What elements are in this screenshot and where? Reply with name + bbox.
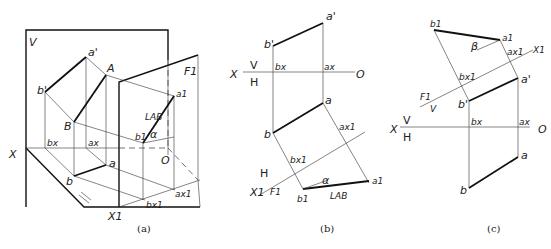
proj-aprime-A [86,57,106,75]
label-b-prime: b' [37,84,47,97]
label-a1: a1 [372,176,383,186]
label-h2: H [260,167,268,180]
segment-bprime-aprime [45,57,86,92]
label-a-prime: a' [521,73,531,86]
equal-mark-2 [81,192,91,200]
label-b: b [264,128,271,141]
label-f1: F1 [270,187,281,197]
label-b1: b1 [430,19,441,29]
label-a: a [521,149,528,162]
label-bx1: bx1 [146,200,163,210]
projection-diagram: V a' A b' B bx ax X a b F1 a1 LAB b1 α O… [0,0,551,249]
caption-b: (b) [320,223,334,234]
panel-a: V a' A b' B bx ax X a b F1 a1 LAB b1 α O… [8,30,200,234]
proj-bprime-b1 [434,30,469,101]
label-o: O [538,123,547,136]
label-f1: F1 [184,65,197,78]
label-x: X [229,68,238,81]
caption-c: (c) [487,223,501,234]
label-beta: β [470,40,478,53]
label-a1: a1 [502,33,513,43]
label-ax1: ax1 [507,47,524,57]
label-a1: a1 [176,89,187,99]
proj-bprime-B [45,92,74,122]
label-bx: bx [47,138,59,148]
h-plane-right [198,180,200,207]
label-ax: ax [88,138,100,148]
label-x: X [389,123,398,136]
label-bx: bx [275,62,287,72]
segment-a1b1 [434,30,500,40]
segment-ab [273,103,323,133]
label-x1: X1 [249,186,265,199]
label-ax: ax [324,62,336,72]
caption-a: (a) [137,223,151,234]
label-lab: LAB [330,191,347,201]
segment-AB [74,75,106,122]
label-ax1: ax1 [339,122,356,132]
segment-bprime-aprime [273,23,323,46]
label-v2: V [430,104,437,114]
segment-ab [469,157,518,188]
angle-ref-line [143,137,174,143]
label-b-prime: b' [458,98,468,111]
equal-mark-1 [79,195,89,203]
panel-c: b1 a1 β ax1 X1 bx1 F1 V a' b' X V H bx a… [389,19,547,234]
label-v: V [29,36,38,49]
label-v: V [403,114,411,127]
segment-a1b1 [303,181,369,189]
proj-A-a1 [106,75,174,96]
label-bx1: bx1 [459,72,476,82]
label-b: b [66,175,73,188]
label-a-prime: a' [326,10,336,23]
label-a: a [325,94,332,107]
label-b1: b1 [135,132,146,142]
proj-B-b1 [74,122,143,143]
label-b: b [460,184,467,197]
label-ax1: ax1 [175,189,192,199]
label-origin: O [161,154,170,167]
label-h: H [403,131,411,144]
x1-hidden [168,148,198,180]
label-h: H [250,76,258,89]
panel-b: a' b' X V H bx ax O a b ax1 bx1 H X1 F1 … [229,10,383,234]
label-x1: X1 [532,45,545,55]
label-alpha: α [322,174,330,187]
label-x1: X1 [107,210,123,223]
proj-ax-a [86,148,106,165]
angle-ref-line [477,40,500,50]
label-b1: b1 [297,194,308,204]
label-A: A [106,62,115,75]
label-ax: ax [519,117,531,127]
label-lab: LAB [145,112,162,122]
label-x: X [8,148,17,161]
proj-b-bx1 [74,176,145,200]
label-b-prime: b' [264,38,274,51]
label-v: V [250,59,258,72]
label-a-prime: a' [88,46,98,59]
proj-a-a1 [323,103,369,183]
label-alpha: α [150,128,158,141]
label-o: O [356,68,365,81]
segment-ab [74,165,106,176]
label-bx: bx [471,117,483,127]
proj-a-ax1 [106,165,175,190]
label-f1: F1 [420,92,431,102]
label-a: a [109,157,116,170]
label-bx1: bx1 [290,155,307,165]
segment-bprime-aprime [469,78,518,101]
label-B: B [64,120,72,133]
